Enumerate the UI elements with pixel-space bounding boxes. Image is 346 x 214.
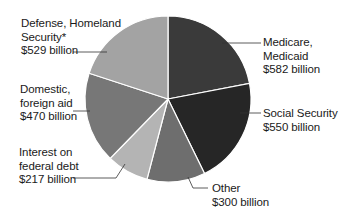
label-interest-line1: Interest on: [19, 146, 79, 160]
label-other-value: $300 billion: [212, 196, 269, 210]
label-domestic-line2: foreign aid: [20, 97, 77, 111]
label-domestic: Domestic, foreign aid $470 billion: [20, 83, 77, 124]
label-defense: Defense, Homeland Security* $529 billion: [21, 17, 121, 58]
label-domestic-value: $470 billion: [20, 110, 77, 124]
label-social-value: $550 billion: [263, 121, 338, 135]
label-interest: Interest on federal debt $217 billion: [19, 146, 79, 187]
label-defense-line1: Defense, Homeland: [21, 17, 121, 31]
label-other-line1: Other: [212, 182, 269, 196]
label-social-security: Social Security $550 billion: [263, 107, 338, 134]
label-other: Other $300 billion: [212, 182, 269, 209]
label-social-line1: Social Security: [263, 107, 338, 121]
label-domestic-line1: Domestic,: [20, 83, 77, 97]
label-medicare-line1: Medicare,: [263, 36, 320, 50]
label-defense-line2: Security*: [21, 31, 121, 45]
label-interest-value: $217 billion: [19, 173, 79, 187]
label-interest-line2: federal debt: [19, 160, 79, 174]
label-medicare: Medicare, Medicaid $582 billion: [263, 36, 320, 77]
leader-interest: [73, 164, 125, 178]
label-defense-value: $529 billion: [21, 44, 121, 58]
label-medicare-line2: Medicaid: [263, 50, 320, 64]
label-medicare-value: $582 billion: [263, 63, 320, 77]
